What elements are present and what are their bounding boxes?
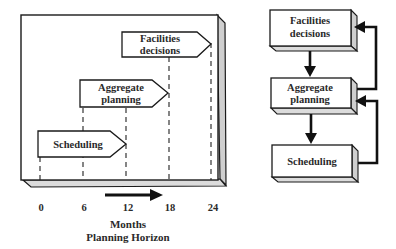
aggregate-arrow-label-1: Aggregate xyxy=(98,82,144,93)
timeline-panel: Facilities decisions Aggregate planning … xyxy=(21,15,226,243)
tick-0: 0 xyxy=(38,202,43,213)
aggregate-planning-box: Aggregate planning xyxy=(271,78,357,114)
aggregate-planning-arrow: Aggregate planning xyxy=(80,80,168,107)
facilities-arrow-label-1: Facilities xyxy=(140,33,180,44)
aggregate-box-label-1: Aggregate xyxy=(287,82,333,93)
tick-6: 6 xyxy=(81,202,86,213)
axis-title-months: Months xyxy=(110,218,147,230)
hierarchy-panel: Facilities decisions Aggregate planning … xyxy=(270,10,377,182)
aggregate-arrow-label-2: planning xyxy=(101,94,141,105)
axis-title-planning-horizon: Planning Horizon xyxy=(86,231,169,243)
tick-12: 12 xyxy=(123,202,134,213)
tick-24: 24 xyxy=(208,202,219,213)
down-arrow-facilities-to-aggregate xyxy=(304,51,316,77)
facilities-arrow-label-2: decisions xyxy=(140,45,180,56)
planning-horizon-diagram: Facilities decisions Aggregate planning … xyxy=(0,0,396,249)
time-direction-arrow xyxy=(105,189,163,201)
facilities-decisions-box: Facilities decisions xyxy=(270,10,357,51)
facilities-box-label-2: decisions xyxy=(290,28,330,39)
scheduling-box: Scheduling xyxy=(272,145,358,182)
scheduling-arrow: Scheduling xyxy=(38,131,126,157)
facilities-decisions-arrow: Facilities decisions xyxy=(122,32,211,57)
scheduling-arrow-label: Scheduling xyxy=(53,139,103,150)
down-arrow-aggregate-to-scheduling xyxy=(305,114,317,144)
scheduling-box-label: Scheduling xyxy=(287,156,337,167)
aggregate-box-label-2: planning xyxy=(290,94,330,105)
tick-18: 18 xyxy=(165,202,176,213)
facilities-box-label-1: Facilities xyxy=(290,15,330,26)
